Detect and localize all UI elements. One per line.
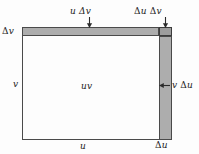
label-delta-v: Δv	[2, 27, 14, 36]
top-shaded-band-u-delta-v	[22, 27, 159, 36]
arrow-left-icon	[159, 82, 170, 89]
outer-rectangle	[22, 27, 172, 140]
label-bottom-right-delta-u: Δu	[155, 141, 168, 150]
label-right-band: v Δu	[172, 81, 193, 90]
product-rule-diagram: u Δv Δu Δv Δv v uv v Δu u Δu	[0, 0, 199, 154]
label-bottom-u: u	[80, 142, 86, 151]
label-corner: Δu Δv	[134, 7, 162, 16]
arrow-down-corner-icon	[162, 17, 169, 28]
label-top-band: u Δv	[70, 7, 91, 16]
label-center-uv: uv	[81, 82, 92, 91]
arrow-down-icon	[86, 17, 93, 28]
label-left-side-v: v	[13, 80, 18, 89]
corner-square-delta-u-delta-v	[159, 27, 172, 36]
